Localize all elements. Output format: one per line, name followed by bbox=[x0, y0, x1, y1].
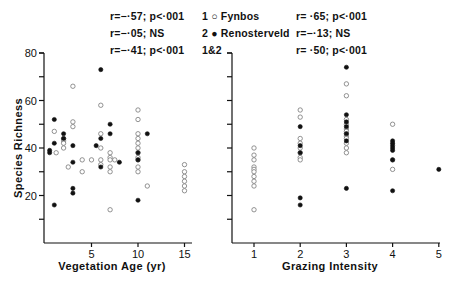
renosterveld-point bbox=[94, 144, 98, 148]
fynbos-point bbox=[136, 132, 140, 136]
fynbos-point bbox=[99, 103, 103, 107]
x-tick-label: 5 bbox=[436, 248, 442, 260]
renosterveld-point bbox=[48, 151, 52, 155]
fynbos-point bbox=[61, 141, 65, 145]
renosterveld-point bbox=[52, 203, 56, 207]
renosterveld-point bbox=[344, 132, 348, 136]
fynbos-point bbox=[298, 158, 302, 162]
right-ticks: 12345 bbox=[227, 53, 442, 260]
renosterveld-point bbox=[344, 65, 348, 69]
fynbos-point bbox=[99, 146, 103, 150]
fynbos-point bbox=[182, 179, 186, 183]
fynbos-point bbox=[99, 158, 103, 162]
fynbos-point bbox=[136, 170, 140, 174]
renosterveld-point bbox=[298, 144, 302, 148]
fynbos-point bbox=[71, 120, 75, 124]
renosterveld-point bbox=[71, 160, 75, 164]
right-data-points bbox=[252, 65, 441, 212]
fynbos-point bbox=[136, 117, 140, 121]
renosterveld-point bbox=[344, 139, 348, 143]
fynbos-point bbox=[80, 170, 84, 174]
renosterveld-point bbox=[344, 120, 348, 124]
fynbos-point bbox=[66, 165, 70, 169]
left-x-axis-title: Vegetation Age (yr) bbox=[58, 260, 165, 272]
renosterveld-point bbox=[298, 203, 302, 207]
fynbos-point bbox=[298, 108, 302, 112]
renosterveld-point bbox=[298, 151, 302, 155]
right-axes bbox=[227, 53, 440, 243]
x-tick-label: 4 bbox=[390, 248, 396, 260]
fynbos-point bbox=[344, 94, 348, 98]
renosterveld-point bbox=[62, 136, 66, 140]
fynbos-point bbox=[89, 158, 93, 162]
renosterveld-point bbox=[71, 191, 75, 195]
fynbos-point bbox=[182, 184, 186, 188]
right-x-axis-title: Grazing Intensity bbox=[282, 260, 379, 272]
fynbos-point bbox=[145, 184, 149, 188]
renosterveld-point bbox=[437, 167, 441, 171]
fynbos-point bbox=[344, 146, 348, 150]
fynbos-point bbox=[252, 170, 256, 174]
fynbos-point bbox=[182, 170, 186, 174]
fynbos-point bbox=[108, 170, 112, 174]
y-axis-title: Species Richness bbox=[12, 98, 24, 198]
fynbos-point bbox=[52, 129, 56, 133]
fynbos-point bbox=[252, 174, 256, 178]
fynbos-point bbox=[71, 84, 75, 88]
x-tick-label: 5 bbox=[88, 248, 94, 260]
fynbos-point bbox=[252, 146, 256, 150]
fynbos-point bbox=[136, 136, 140, 140]
renosterveld-point bbox=[117, 160, 121, 164]
fynbos-point bbox=[252, 208, 256, 212]
renosterveld-point bbox=[52, 117, 56, 121]
fynbos-point bbox=[182, 174, 186, 178]
fynbos-point bbox=[54, 151, 58, 155]
renosterveld-point bbox=[71, 144, 75, 148]
renosterveld-point bbox=[136, 158, 140, 162]
fynbos-point bbox=[108, 151, 112, 155]
fynbos-point bbox=[252, 179, 256, 183]
renosterveld-point bbox=[99, 68, 103, 72]
fynbos-point bbox=[252, 153, 256, 157]
fynbos-point bbox=[390, 167, 394, 171]
fynbos-point bbox=[344, 82, 348, 86]
renosterveld-point bbox=[108, 132, 112, 136]
renosterveld-point bbox=[298, 125, 302, 129]
renosterveld-point bbox=[136, 151, 140, 155]
x-tick-label: 15 bbox=[178, 248, 190, 260]
renosterveld-point bbox=[344, 113, 348, 117]
renosterveld-point bbox=[99, 165, 103, 169]
renosterveld-point bbox=[108, 122, 112, 126]
fynbos-point bbox=[298, 115, 302, 119]
fynbos-point bbox=[344, 151, 348, 155]
y-tick-label: 80 bbox=[25, 47, 37, 59]
fynbos-point bbox=[108, 158, 112, 162]
fynbos-point bbox=[136, 108, 140, 112]
renosterveld-point bbox=[52, 141, 56, 145]
fynbos-point bbox=[108, 165, 112, 169]
x-tick-label: 3 bbox=[343, 248, 349, 260]
renosterveld-point bbox=[344, 125, 348, 129]
fynbos-point bbox=[182, 189, 186, 193]
x-tick-label: 1 bbox=[251, 248, 257, 260]
scatter-plots: 2040608051015 12345 Species Richness Veg… bbox=[0, 0, 455, 281]
x-tick-label: 2 bbox=[297, 248, 303, 260]
fynbos-point bbox=[99, 132, 103, 136]
fynbos-point bbox=[136, 165, 140, 169]
fynbos-point bbox=[390, 122, 394, 126]
fynbos-point bbox=[71, 124, 75, 128]
fynbos-point bbox=[298, 136, 302, 140]
fynbos-point bbox=[136, 146, 140, 150]
fynbos-point bbox=[182, 162, 186, 166]
fynbos-point bbox=[108, 208, 112, 212]
left-data-points bbox=[48, 68, 187, 212]
fynbos-point bbox=[136, 141, 140, 145]
x-tick-label: 10 bbox=[132, 248, 144, 260]
y-tick-label: 40 bbox=[25, 142, 37, 154]
y-tick-label: 20 bbox=[25, 190, 37, 202]
renosterveld-point bbox=[99, 136, 103, 140]
renosterveld-point bbox=[136, 198, 140, 202]
y-tick-label: 60 bbox=[25, 95, 37, 107]
renosterveld-point bbox=[391, 189, 395, 193]
renosterveld-point bbox=[344, 186, 348, 190]
